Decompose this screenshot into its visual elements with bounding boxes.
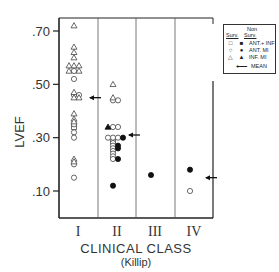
open-circle-marker	[71, 76, 76, 81]
legend: Non Surv. Surv. □ ■ ANT.+ INF ○ ● ANT. M…	[223, 24, 276, 74]
y-tick-label: .30	[32, 130, 50, 145]
x-category-label: III	[148, 224, 162, 239]
legend-header-surv: Surv.	[226, 32, 238, 39]
open-square-icon: □	[227, 40, 234, 47]
open-circle-marker	[115, 98, 120, 103]
open-triangle-icon: △	[227, 54, 234, 61]
legend-header-nonsurv: Surv.	[244, 32, 256, 39]
y-tick-label: .10	[32, 184, 50, 199]
open-triangle-marker	[76, 63, 82, 68]
mean-arrow-icon	[128, 133, 133, 138]
x-axis: IIIIIIIV	[76, 224, 202, 239]
open-triangle-marker	[110, 81, 116, 86]
filled-square-icon: ■	[238, 40, 245, 47]
filled-triangle-icon: ▲	[238, 54, 245, 61]
open-triangle-marker	[71, 89, 77, 94]
legend-entry-ant-mi: ○ ● ANT. MI	[226, 47, 274, 54]
y-axis: .10.30.50.70	[32, 24, 59, 199]
mean-arrow-icon: ⟵	[236, 63, 243, 70]
mean-arrow-icon	[89, 95, 94, 100]
legend-label: INF. MI	[249, 54, 266, 61]
filled-circle-marker	[120, 135, 125, 140]
open-circle-marker	[115, 124, 120, 129]
open-triangle-marker	[71, 55, 77, 60]
y-tick-label: .70	[32, 24, 50, 39]
open-circle-marker	[110, 156, 115, 161]
open-triangle-marker	[110, 95, 116, 100]
filled-circle-marker	[115, 146, 120, 151]
open-circle-marker	[71, 135, 76, 140]
legend-label: MEAN	[251, 63, 267, 70]
y-tick-label: .50	[32, 77, 50, 92]
filled-circle-marker	[110, 183, 115, 188]
mean-arrow-icon	[205, 175, 210, 180]
y-axis-label: LVEF	[12, 116, 27, 148]
filled-circle-marker	[115, 156, 120, 161]
open-circle-icon: ○	[227, 47, 234, 54]
open-circle-marker	[105, 135, 110, 140]
x-category-label: I	[76, 224, 81, 239]
open-circle-marker	[187, 188, 192, 193]
open-triangle-marker	[71, 44, 77, 49]
x-axis-label: CLINICAL CLASS	[80, 241, 191, 256]
open-circle-marker	[115, 135, 120, 140]
filled-circle-marker	[148, 172, 153, 177]
filled-circle-marker	[187, 167, 192, 172]
legend-entry-inf-mi: △ ▲ INF. MI	[226, 54, 274, 61]
open-circle-marker	[71, 175, 76, 180]
x-axis-sublabel: (Killip)	[121, 256, 152, 268]
open-triangle-marker	[71, 49, 77, 54]
x-category-label: IV	[187, 224, 202, 239]
filled-circle-icon: ●	[238, 47, 245, 54]
open-circle-marker	[110, 135, 115, 140]
x-category-label: II	[112, 224, 122, 239]
legend-label: ANT. MI	[249, 47, 269, 54]
legend-entry-ant-inf: □ ■ ANT.+ INF	[226, 40, 274, 47]
open-triangle-marker	[66, 63, 72, 68]
plot-frame	[59, 18, 213, 218]
open-circle-marker	[71, 130, 76, 135]
open-triangle-marker	[71, 23, 77, 28]
open-triangle-marker	[71, 111, 77, 116]
legend-entry-mean: ⟵ MEAN	[226, 63, 274, 70]
data-points	[66, 23, 217, 194]
legend-label: ANT.+ INF	[249, 40, 275, 47]
